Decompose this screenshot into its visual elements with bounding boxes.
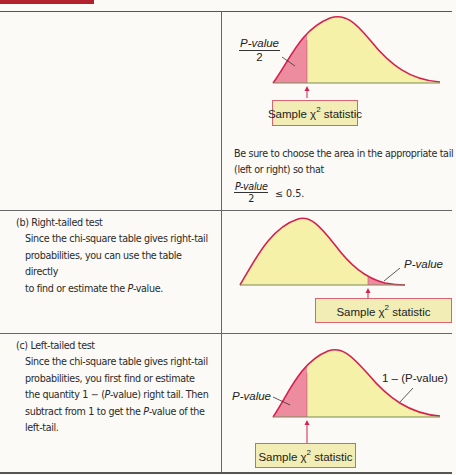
right-tailed-description: (b) Right-tailed test Since the chi-squa… bbox=[16, 215, 216, 297]
statistic-label: Sample χ2 statistic bbox=[258, 449, 352, 463]
half-p-value-label: P-value 2 bbox=[239, 37, 280, 64]
statistic-label: Sample χ2 statistic bbox=[268, 106, 362, 120]
sample-statistic-box: Sample χ2 statistic bbox=[255, 443, 356, 468]
condition-fraction: P-value 2 bbox=[234, 181, 268, 205]
sample-statistic-box: Sample χ2 statistic bbox=[272, 100, 358, 126]
p-value-label: P-value bbox=[404, 258, 443, 270]
description-line: probabilities, you can use the table dir… bbox=[25, 248, 216, 281]
panel-heading: (b) Right-tailed test bbox=[16, 215, 216, 231]
description-line: the quantity 1 − (P-value) right tail. T… bbox=[25, 387, 216, 403]
complement-p-value-label: 1 – (P-value) bbox=[382, 372, 448, 384]
description-line: Since the chi-square table gives right-t… bbox=[25, 231, 216, 247]
sample-statistic-box: Sample χ2 statistic bbox=[315, 298, 452, 323]
left-tailed-description: (c) Left-tailed test Since the chi-squar… bbox=[16, 338, 216, 436]
note-line: (left or right) so that bbox=[234, 162, 454, 178]
statistic-label: Sample χ2 statistic bbox=[336, 304, 430, 318]
table-bottom-border bbox=[0, 472, 452, 474]
description-line: to find or estimate the P-value. bbox=[25, 281, 216, 297]
section-header-bar bbox=[0, 0, 94, 4]
note-line: Be sure to choose the area in the approp… bbox=[234, 146, 454, 162]
description-line: Since the chi-square table gives right-t… bbox=[25, 354, 216, 370]
description-line: probabilities, you first find or estimat… bbox=[25, 371, 216, 387]
panel-heading: (c) Left-tailed test bbox=[16, 338, 216, 354]
description-line: subtract from 1 to get the P-value of th… bbox=[25, 404, 216, 420]
tail-choice-note: Be sure to choose the area in the approp… bbox=[234, 146, 454, 179]
description-line: left-tail. bbox=[25, 420, 216, 436]
condition-rhs: ≤ 0.5. bbox=[275, 188, 304, 199]
p-value-label: P-value bbox=[232, 390, 271, 402]
